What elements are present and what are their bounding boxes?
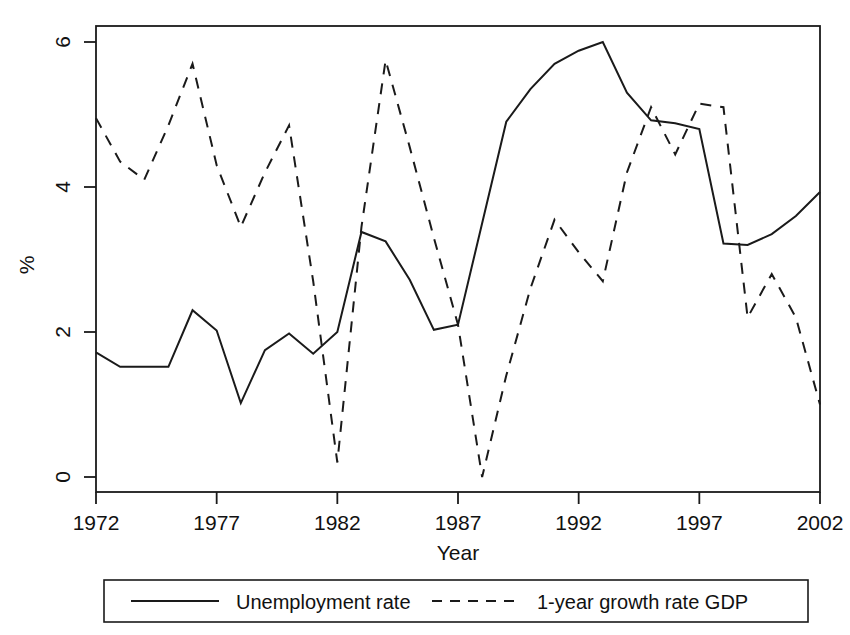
series-line-dashed	[96, 60, 820, 477]
x-tick-label: 1982	[314, 511, 361, 534]
legend-label-unemployment-rate: Unemployment rate	[236, 591, 411, 613]
chart-canvas: 0246 1972197719821987199219972002 % Year…	[0, 0, 850, 635]
y-axis-ticks: 0246	[51, 36, 97, 483]
chart-figure: 0246 1972197719821987199219972002 % Year…	[0, 0, 850, 635]
y-tick-label: 2	[51, 326, 74, 338]
x-tick-label: 1977	[193, 511, 240, 534]
x-tick-label: 1992	[555, 511, 602, 534]
y-tick-label: 0	[51, 471, 74, 483]
legend-label-gdp-growth-rate: 1-year growth rate GDP	[537, 591, 748, 613]
y-axis-title: %	[15, 256, 38, 275]
x-axis-title: Year	[437, 541, 479, 564]
plot-area-frame	[96, 26, 820, 492]
data-series-group	[96, 42, 820, 477]
x-tick-label: 1987	[435, 511, 482, 534]
y-tick-label: 4	[51, 181, 74, 193]
x-tick-label: 2002	[797, 511, 844, 534]
x-axis-ticks: 1972197719821987199219972002	[73, 492, 844, 534]
x-tick-label: 1997	[676, 511, 723, 534]
x-tick-label: 1972	[73, 511, 120, 534]
chart-legend: Unemployment rate 1-year growth rate GDP	[104, 580, 808, 622]
y-tick-label: 6	[51, 36, 74, 48]
series-line-solid	[96, 42, 820, 403]
